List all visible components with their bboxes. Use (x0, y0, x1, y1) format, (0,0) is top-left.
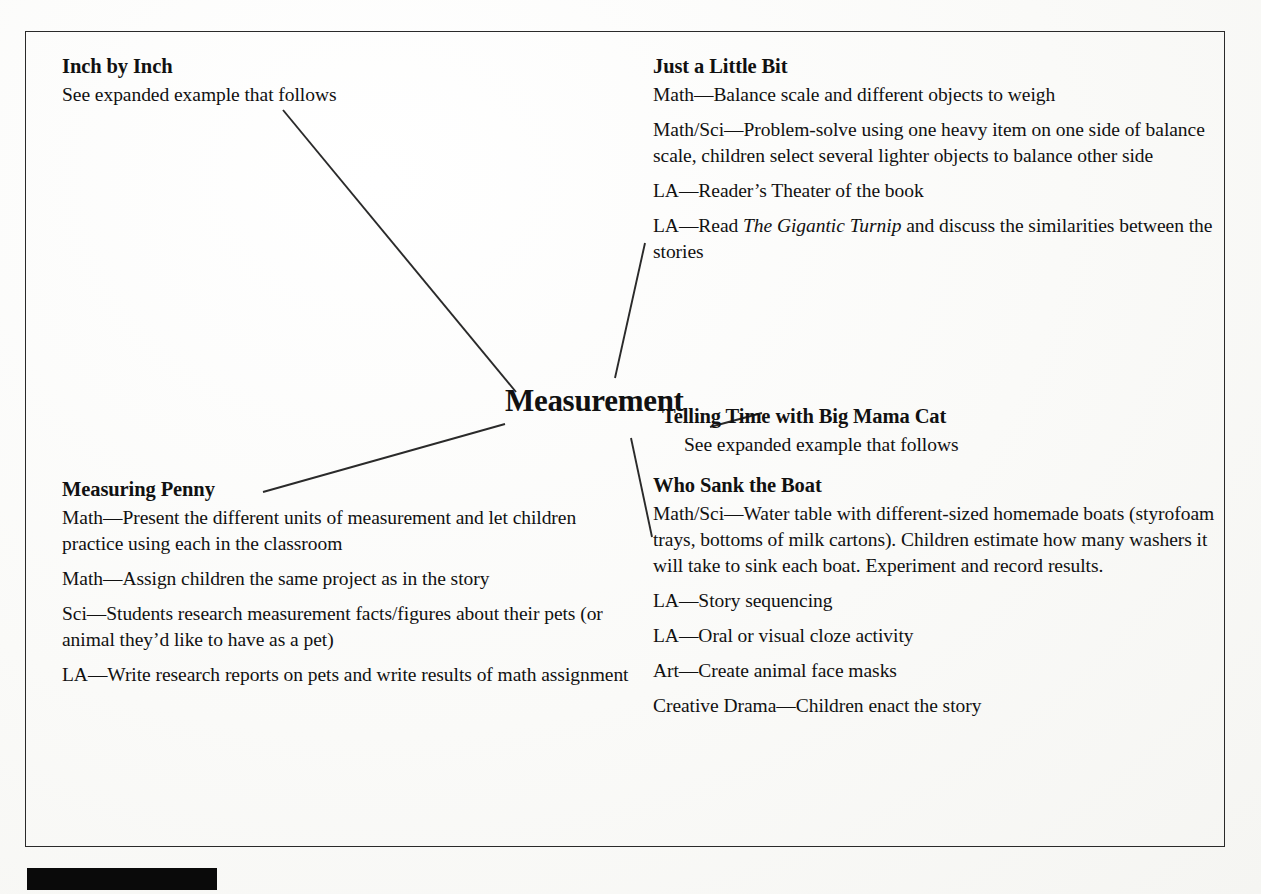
branch-line: See expanded example that follows (62, 82, 482, 108)
branch-title-inch-by-inch: Inch by Inch (62, 54, 482, 80)
branch-line: See expanded example that follows (662, 432, 1182, 458)
center-node-measurement: Measurement (505, 383, 684, 419)
branch-line: Sci—Students research measurement facts/… (62, 601, 642, 653)
line-prefix: LA—Read (653, 215, 743, 236)
branch-line: LA—Story sequencing (653, 588, 1228, 614)
branch-line: Art—Create animal face masks (653, 658, 1228, 684)
branch-line-with-book-title: LA—Read The Gigantic Turnip and discuss … (653, 213, 1225, 265)
branch-line: Math—Present the different units of meas… (62, 505, 642, 557)
branch-line: LA—Oral or visual cloze activity (653, 623, 1228, 649)
branch-telling-time-with-big-mama-cat: Telling Time with Big Mama Cat See expan… (662, 404, 1182, 458)
branch-line: Math/Sci—Problem-solve using one heavy i… (653, 117, 1225, 169)
branch-line: Creative Drama—Children enact the story (653, 693, 1228, 719)
branch-title-telling-time-with-big-mama-cat: Telling Time with Big Mama Cat (662, 404, 1182, 430)
branch-just-a-little-bit: Just a Little Bit Math—Balance scale and… (653, 54, 1225, 265)
branch-inch-by-inch: Inch by Inch See expanded example that f… (62, 54, 482, 108)
branch-line: LA—Write research reports on pets and wr… (62, 662, 642, 688)
book-title: The Gigantic Turnip (743, 215, 901, 236)
branch-line: Math/Sci—Water table with different-size… (653, 501, 1228, 579)
branch-title-just-a-little-bit: Just a Little Bit (653, 54, 1225, 80)
branch-line: LA—Reader’s Theater of the book (653, 178, 1225, 204)
branch-line: Math—Assign children the same project as… (62, 566, 642, 592)
branch-who-sank-the-boat: Who Sank the Boat Math/Sci—Water table w… (653, 473, 1228, 720)
branch-measuring-penny: Measuring Penny Math—Present the differe… (62, 477, 642, 688)
redaction-bar (27, 868, 217, 890)
center-node-label: Measurement (505, 383, 684, 418)
branch-title-measuring-penny: Measuring Penny (62, 477, 642, 503)
branch-title-who-sank-the-boat: Who Sank the Boat (653, 473, 1228, 499)
branch-line: Math—Balance scale and different objects… (653, 82, 1225, 108)
